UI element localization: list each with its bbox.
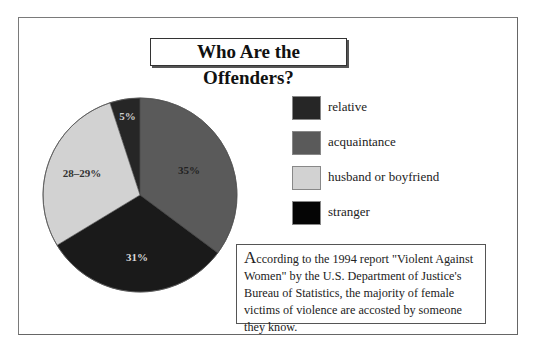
slice-label-acquaintance: 35% (178, 164, 200, 176)
note-text: ccording to the 1994 report "Violent Aga… (244, 252, 473, 334)
slice-label-husband: 28–29% (63, 167, 102, 179)
legend-label: husband or boyfriend (328, 169, 439, 185)
legend-swatch-acquaintance (292, 131, 321, 155)
drop-cap: A (244, 248, 256, 267)
source-note: According to the 1994 report "Violent Ag… (236, 244, 486, 324)
legend-label: relative (328, 99, 367, 115)
legend-swatch-husband (292, 166, 321, 190)
legend-label: stranger (328, 204, 370, 220)
slice-label-relative: 5% (119, 110, 136, 122)
slice-label-stranger: 31% (126, 251, 148, 263)
legend-label: acquaintance (328, 134, 396, 150)
legend-swatch-relative (292, 96, 321, 120)
legend-swatch-stranger (292, 201, 321, 225)
